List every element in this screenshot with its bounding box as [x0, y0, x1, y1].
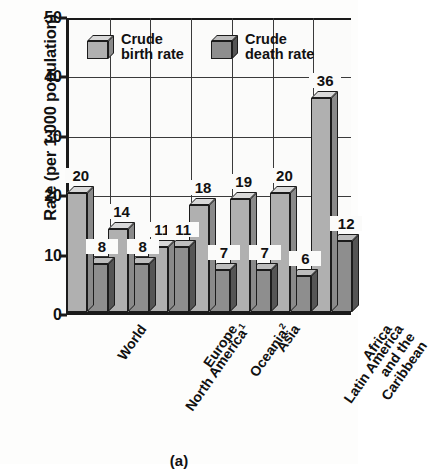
bar-value-label-death-2: 11	[167, 222, 199, 237]
bar-value-label-birth-5: 20	[268, 168, 300, 183]
bar-birth-0	[67, 193, 87, 312]
bar-value-label-death-5: 6	[289, 251, 321, 266]
gridline-y-50	[69, 18, 351, 20]
bar-value-label-birth-0: 20	[65, 168, 97, 183]
legend-item-crude-death-rate: Crude death rate	[211, 32, 314, 62]
x-axis-label-0: World	[115, 322, 149, 362]
bar-value-label-death-3: 7	[208, 245, 240, 260]
y-tick-label-20: 20	[20, 187, 62, 205]
bar-value-label-birth-3: 18	[187, 180, 219, 195]
y-tick-label-50: 50	[20, 9, 62, 27]
y-tick-label-30: 30	[20, 128, 62, 146]
gridline-y-30	[69, 137, 351, 138]
bar-value-label-death-1: 8	[127, 239, 159, 254]
legend-label-birth: Crude birth rate	[121, 32, 184, 62]
y-tick-label-0: 0	[20, 306, 62, 324]
bar-value-label-death-4: 7	[249, 245, 281, 260]
plot-area: 20814811111871972063612 Crude birth rate…	[66, 18, 351, 315]
legend-label-death: Crude death rate	[245, 32, 314, 62]
cube-icon-death	[211, 35, 238, 59]
bar-value-label-birth-6: 36	[309, 73, 341, 88]
figure-caption: (a)	[0, 452, 358, 469]
cube-icon-birth	[87, 35, 114, 59]
legend-item-crude-birth-rate: Crude birth rate	[87, 32, 184, 62]
bar-value-label-birth-1: 14	[106, 204, 138, 219]
bar-value-label-death-0: 8	[86, 239, 118, 254]
y-tick-label-10: 10	[20, 247, 62, 265]
bar-value-label-birth-4: 19	[228, 174, 260, 189]
y-tick-label-40: 40	[20, 68, 62, 86]
bar-value-label-death-6: 12	[330, 216, 362, 231]
